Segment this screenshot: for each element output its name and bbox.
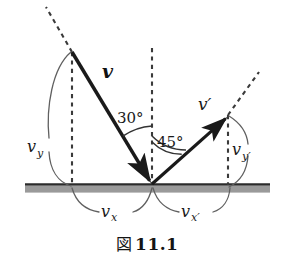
vx-label-base: v [101,202,110,221]
vxp-label: v x′ [181,202,200,224]
figure-caption-number: 11.1 [135,234,178,254]
reflection-vector-diagram: v v′ 30° 45° v y v x v x′ v y′ [0,0,294,269]
vxp-label-subscript: x′ [191,211,200,224]
incoming-extension-dashed-line [46,7,72,52]
velocity-vectors [72,52,226,184]
outgoing-vector-label: v′ [198,94,212,114]
incoming-vector-label: v [102,60,114,82]
ground-hatch-band [25,185,270,192]
vy-brace-arc-upper [48,52,71,138]
vy-label: v y [27,137,44,160]
outgoing-velocity-vector [152,119,226,184]
dashed-guides [46,7,259,185]
vx-label-subscript: x [111,211,118,224]
physics-figure: v v′ 30° 45° v y v x v x′ v y′ 図11.1 [0,0,294,269]
vyp-label-subscript: y′ [241,150,251,163]
vy-label-base: v [27,137,36,156]
incoming-angle-arc-30 [123,126,152,136]
figure-caption: 図11.1 [0,231,294,255]
vy-brace-arc-lower [49,152,71,186]
ground-surface [25,184,270,192]
incoming-angle-label: 30° [117,109,144,127]
figure-caption-word: 図 [116,235,133,254]
vxp-label-base: v [181,202,190,221]
vx-label: v x [101,202,118,224]
outgoing-extension-dashed-line [228,72,259,115]
vyp-label-base: v [232,140,241,159]
vy-label-subscript: y [36,147,44,160]
outgoing-angle-label: 45° [157,133,184,151]
